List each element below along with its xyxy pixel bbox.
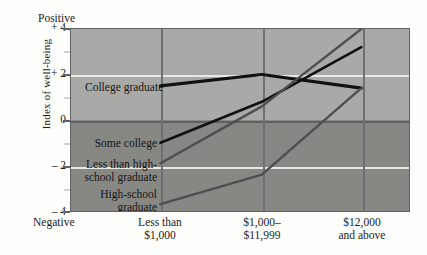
x-tick-label-cat2-line1: $1,000–: [222, 216, 302, 229]
x-tick-label-cat3: $12,000 and above: [322, 216, 402, 242]
y-tick-label-2: + 2: [40, 67, 66, 79]
x-tick-label-cat1-line2: $1,000: [120, 229, 200, 242]
y-tick-label-neg2: – 2: [40, 159, 66, 171]
y-axis-ticks: + 4 + 2 0 – 2 – 4: [34, 28, 66, 212]
x-tick-label-cat1-line1: Less than: [120, 216, 200, 229]
x-tick-label-cat2-line2: $11,999: [222, 229, 302, 242]
y-tick-label-4: + 4: [40, 21, 66, 33]
y-tickmark-0: [63, 120, 70, 122]
x-tick-label-cat1: Less than $1,000: [120, 216, 200, 242]
chart-figure: Positive Negative Index of well-being + …: [0, 0, 427, 255]
x-tick-label-cat2: $1,000– $11,999: [222, 216, 302, 242]
axis-caption-negative: Negative: [33, 216, 75, 228]
series-line-some-college: [160, 47, 361, 143]
y-tickmark-neg4: [63, 211, 70, 213]
x-tick-label-cat3-line2: and above: [322, 229, 402, 242]
series-line-less-than-high-school-graduate: [160, 29, 361, 163]
plot-area: College graduate Some college Less than …: [70, 28, 410, 212]
y-tickmark-4: [63, 28, 70, 30]
x-tick-label-cat3-line1: $12,000: [322, 216, 402, 229]
y-tickmark-2: [63, 74, 70, 76]
y-tickmark-neg2: [63, 166, 70, 168]
data-series-lines: [71, 29, 409, 211]
y-tick-label-0: 0: [40, 113, 66, 125]
series-line-college-graduate: [160, 75, 361, 89]
